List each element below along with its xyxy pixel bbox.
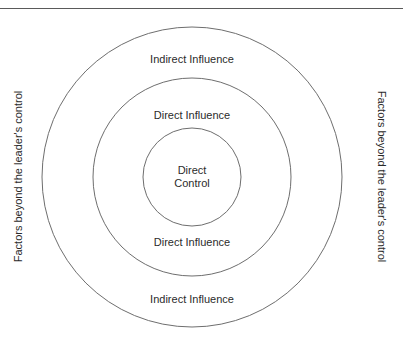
label-direct-control-line2: Control (174, 177, 209, 189)
spheres-of-influence-diagram: Indirect Influence Direct Influence Dire… (0, 0, 403, 353)
label-indirect-influence-top: Indirect Influence (150, 53, 234, 66)
caption-factors-beyond-control-left: Factors beyond the leader's control (12, 57, 25, 297)
label-direct-control: Direct Control (156, 164, 228, 190)
caption-factors-beyond-control-right: Factors beyond the leader's control (375, 57, 388, 297)
label-direct-influence-top: Direct Influence (154, 109, 230, 122)
label-direct-influence-bottom: Direct Influence (154, 236, 230, 249)
label-indirect-influence-bottom: Indirect Influence (150, 293, 234, 306)
label-direct-control-line1: Direct (178, 164, 207, 176)
